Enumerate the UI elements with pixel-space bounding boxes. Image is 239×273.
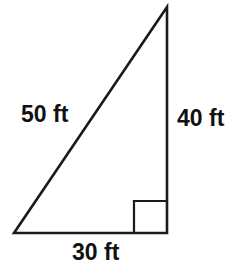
triangle-drawing: [0, 0, 239, 273]
base-leg-length-label: 30 ft: [72, 241, 119, 264]
hypotenuse-length-label: 50 ft: [21, 103, 68, 126]
triangle-figure: 50 ft 40 ft 30 ft: [0, 0, 239, 273]
vertical-leg-length-label: 40 ft: [177, 107, 224, 130]
